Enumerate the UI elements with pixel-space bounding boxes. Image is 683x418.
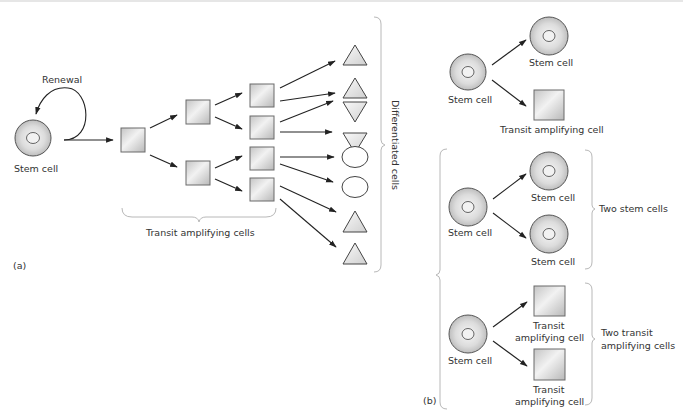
transit-cell-child-3b-label-1: Transit [532,384,565,395]
differentiation-arrows [280,61,336,247]
diff-cell-triangle-2 [343,78,367,98]
arrow-to-transit-a [493,302,527,327]
arrow-gen2a-up [215,93,242,105]
arrow-to-stem-b [493,213,526,238]
panel-b: Stem cell Stem cell Transit amplifying c… [423,17,675,409]
stem-cell-division-diagram: Renewal Stem cell [0,0,683,418]
panel-a: Renewal Stem cell [13,17,401,272]
stem-cell-child-2a-label: Stem cell [531,192,575,203]
stem-cell-label-a: Stem cell [14,163,58,174]
symmetric-stem-division: Stem cell Stem cell Stem cell Two stem c… [448,150,668,269]
arrow-to-transit [492,80,526,106]
transit-cell-gen2-a [186,100,210,124]
diff-cell-ellipse-1 [342,147,368,168]
differentiated-cells-label: Differentiated cells [390,100,401,190]
differentiated-brace [374,17,385,272]
stem-cell-parent-1-label: Stem cell [448,94,492,105]
diff-cell-ellipse-2 [342,177,368,198]
two-stem-cells-brace [585,150,595,269]
transit-cell-gen1 [121,128,145,152]
two-transit-cells-brace [585,283,595,405]
transit-cell-child-1-label: Transit amplifying cell [499,124,604,135]
differentiated-cells [342,45,368,264]
two-transit-cells-label-2: amplifying cells [601,340,675,351]
diff-cell-triangle-down-1 [343,102,367,122]
renewal-label: Renewal [42,74,82,85]
two-stem-cells-label: Two stem cells [598,203,668,214]
stem-cell-parent-2-label: Stem cell [448,227,492,238]
panel-b-label: (b) [423,395,436,406]
transit-cell-gen3-a [250,84,274,107]
transit-brace [122,208,276,222]
arrow-to-transit-b [493,341,527,366]
stem-cell-a [15,120,51,156]
arrow-to-stem [492,40,526,65]
arrow-gen2b-down [215,179,242,191]
transit-cell-child-3b [534,349,565,380]
arrow-gen1-down [150,155,177,167]
arrow-to-stem-a [493,174,526,199]
stem-cell-parent-3-label: Stem cell [448,355,492,366]
symmetric-division-brace [436,149,447,409]
transit-cell-child-3a [534,286,565,316]
transit-cell-gen3-b [250,116,274,139]
diff-cell-triangle-3 [343,211,367,232]
transit-cell-gen3-c [250,147,274,170]
symmetric-transit-division: Stem cell Transit amplifying cell Transi… [448,283,675,407]
two-transit-cells-label-1: Two transit [600,327,653,338]
transit-amplifying-cells-label: Transit amplifying cells [145,227,255,238]
transit-cell-child-3a-label-1: Transit [532,320,565,331]
asymmetric-division: Stem cell Stem cell Transit amplifying c… [448,17,604,135]
arrow-gen1-up [150,115,177,128]
diff-cell-triangle-1 [343,45,367,65]
transit-cell-gen3-d [250,178,274,201]
diff-cell-triangle-4 [343,243,367,264]
stem-cell-child-2b-label: Stem cell [531,256,575,267]
stem-cell-child-1-label: Stem cell [529,57,573,68]
transit-cell-child-3a-label-2: amplifying cell [515,332,584,343]
arrow-gen2a-down [215,117,242,129]
transit-cell-child-1 [534,90,564,120]
arrow-gen2b-up [215,156,242,168]
transit-cell-gen2-b [186,161,210,185]
transit-cell-child-3b-label-2: amplifying cell [515,396,584,407]
panel-a-label: (a) [13,260,26,271]
